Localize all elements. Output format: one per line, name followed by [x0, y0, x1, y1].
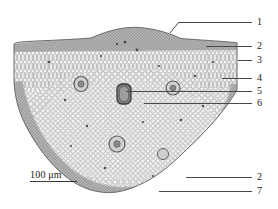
callout-label-4: 4	[257, 73, 262, 83]
callout-label-2-top: 2	[257, 41, 262, 51]
callout-label-7: 7	[257, 186, 262, 196]
leader-line-4	[222, 78, 252, 79]
figure-panel: 1 2 3 4 5 6 2 7 100 μm	[0, 0, 278, 209]
leader-line-2-top	[206, 46, 252, 47]
scale-bar-rule	[30, 181, 77, 182]
scale-bar-label: 100 μm	[30, 169, 77, 180]
leader-line-6	[144, 103, 252, 104]
callout-label-6: 6	[257, 98, 262, 108]
leader-line-7	[159, 191, 252, 192]
callout-label-5: 5	[257, 86, 262, 96]
callout-label-3: 3	[257, 55, 262, 65]
leader-line-3	[238, 60, 252, 61]
callout-label-1: 1	[257, 17, 262, 27]
leader-line-5	[126, 91, 252, 92]
callout-label-2-bottom: 2	[257, 172, 262, 182]
leader-line-2-bottom	[186, 177, 252, 178]
scale-bar: 100 μm	[30, 169, 77, 182]
